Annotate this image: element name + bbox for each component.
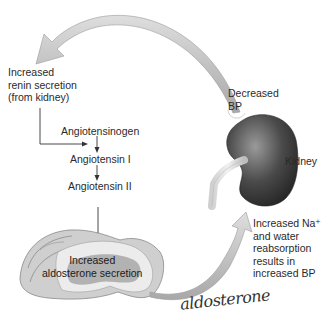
renin-secretion-label: Increased renin secretion (from kidney) <box>8 66 77 104</box>
angiotensinogen-label: Angiotensinogen <box>61 125 139 138</box>
decreased-bp-label: Decreased BP <box>228 87 279 112</box>
bottom-arrow <box>150 212 252 300</box>
aldosterone-secretion-label: Increased aldosterone secretion <box>42 254 142 279</box>
angiotensin-2-label: Angiotensin II <box>68 180 132 193</box>
angiotensin-1-label: Angiotensin I <box>70 153 131 166</box>
kidney-label: Kidney <box>285 155 317 168</box>
increased-bp-result-label: Increased Na⁺ and water reabsorption res… <box>253 217 321 280</box>
